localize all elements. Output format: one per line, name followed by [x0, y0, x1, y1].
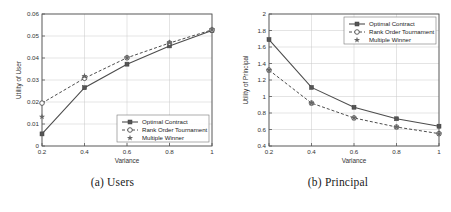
x-tick-label: 0.6	[123, 148, 132, 155]
y-tick-label: 1.4	[257, 60, 266, 67]
y-tick-label: 1.6	[257, 43, 266, 50]
marker-square-optimal-contract	[125, 62, 129, 66]
chart-principal-svg: 0.20.40.60.810.40.60.811.21.41.61.82Vari…	[225, 0, 451, 172]
legend-label: Rank Order Tournament	[142, 126, 208, 133]
x-tick-label: 0.4	[307, 148, 316, 155]
y-tick-label: 2	[263, 10, 267, 17]
x-axis-label: Variance	[115, 157, 140, 164]
y-tick-label: 0	[36, 142, 40, 149]
legend-marker-circle	[128, 128, 133, 133]
y-tick-label: 0.6	[257, 126, 266, 133]
y-tick-label: 0.04	[27, 54, 40, 61]
y-tick-label: 0.02	[27, 98, 40, 105]
y-tick-label: 0.03	[27, 76, 40, 83]
caption-users: (a) Users	[0, 176, 225, 188]
marker-square-optimal-contract	[40, 132, 44, 136]
legend: Optimal ContractRank Order TournamentMul…	[117, 115, 209, 142]
chart-principal: 0.20.40.60.810.40.60.811.21.41.61.82Vari…	[225, 0, 451, 172]
marker-square-optimal-contract	[310, 85, 314, 89]
y-axis-label: Utility of User	[15, 60, 23, 99]
x-tick-label: 0.2	[265, 148, 274, 155]
x-axis-label: Variance	[342, 157, 367, 164]
y-tick-label: 1	[263, 93, 267, 100]
caption-principal: (b) Principal	[225, 176, 451, 188]
legend-label: Optimal Contract	[142, 118, 188, 125]
legend-label: Multiple Winner	[369, 36, 411, 43]
legend-label: Optimal Contract	[369, 20, 415, 27]
x-tick-label: 1	[210, 148, 214, 155]
x-tick-label: 0.2	[38, 148, 47, 155]
y-tick-label: 0.06	[27, 10, 40, 17]
legend: Optimal ContractRank Order TournamentMul…	[344, 17, 436, 44]
y-tick-label: 1.8	[257, 27, 266, 34]
chart-users: 0.20.40.60.8100.010.020.030.040.050.06Va…	[0, 0, 225, 172]
x-tick-label: 0.6	[350, 148, 359, 155]
x-tick-label: 0.4	[80, 148, 89, 155]
marker-square-optimal-contract	[352, 105, 356, 109]
marker-square-optimal-contract	[267, 38, 271, 42]
legend-label: Rank Order Tournament	[369, 28, 435, 35]
legend-label: Multiple Winner	[142, 134, 184, 141]
x-tick-label: 1	[437, 148, 441, 155]
figure-container: 0.20.40.60.8100.010.020.030.040.050.06Va…	[0, 0, 451, 212]
y-tick-label: 0.4	[257, 142, 266, 149]
legend-marker-square	[128, 120, 132, 124]
y-tick-label: 0.8	[257, 109, 266, 116]
marker-circle-rank-order-tournament	[40, 101, 45, 106]
y-tick-label: 0.05	[27, 32, 40, 39]
legend-marker-circle	[355, 30, 360, 35]
marker-square-optimal-contract	[83, 86, 87, 90]
x-tick-label: 0.8	[392, 148, 401, 155]
panel-principal: 0.20.40.60.810.40.60.811.21.41.61.82Vari…	[225, 0, 451, 212]
chart-users-svg: 0.20.40.60.8100.010.020.030.040.050.06Va…	[0, 0, 225, 172]
marker-square-optimal-contract	[395, 117, 399, 121]
x-tick-label: 0.8	[165, 148, 174, 155]
y-tick-label: 0.01	[27, 120, 40, 127]
panel-users: 0.20.40.60.8100.010.020.030.040.050.06Va…	[0, 0, 225, 212]
legend-marker-square	[355, 22, 359, 26]
y-tick-label: 1.2	[257, 76, 266, 83]
y-axis-label: Utility of Principal	[242, 55, 250, 104]
marker-square-optimal-contract	[437, 124, 441, 128]
